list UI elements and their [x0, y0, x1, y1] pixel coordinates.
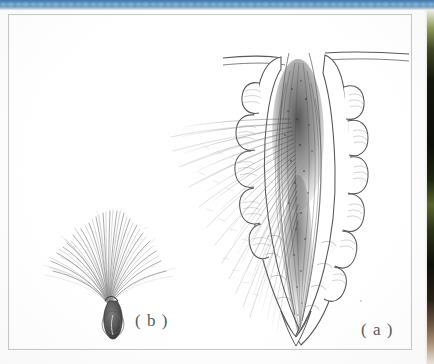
botanical-plate-illustration: [9, 15, 411, 349]
panel-a-drawing: [171, 52, 409, 346]
panel-label-a: ( a ): [361, 320, 393, 340]
stem-line: [223, 52, 409, 65]
ink-speck: [360, 300, 362, 302]
pappus-bristles: [51, 211, 166, 305]
figure-plate-frame: ( b ) ( a ): [8, 14, 412, 350]
page-header-band: [0, 0, 434, 10]
adjacent-photo-edge: [427, 10, 434, 364]
seed-body: [102, 301, 124, 339]
panel-label-b: ( b ): [135, 311, 168, 331]
header-band-texture: [0, 2, 434, 7]
scanned-page: ( b ) ( a ): [0, 0, 434, 364]
